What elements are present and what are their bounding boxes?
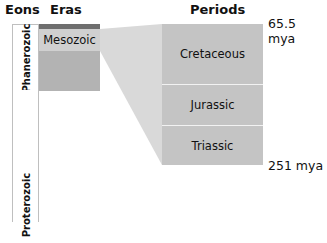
period-label: Cretaceous: [180, 47, 245, 61]
time-label-bottom: 251 mya: [268, 158, 323, 173]
period-triassic: Triassic: [162, 126, 263, 165]
time-label-top: 65.5 mya: [268, 16, 327, 46]
period-label: Jurassic: [191, 98, 235, 112]
period-cretaceous: Cretaceous: [162, 24, 263, 84]
period-label: Triassic: [192, 139, 234, 153]
period-jurassic: Jurassic: [162, 85, 263, 125]
